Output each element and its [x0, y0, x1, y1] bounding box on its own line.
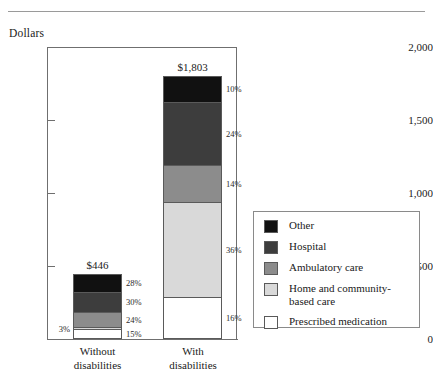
- segment-percent-label: 30%: [126, 298, 142, 307]
- legend-item-label: Home and community-based care: [289, 282, 391, 308]
- segment-percent-label: 24%: [126, 316, 142, 325]
- legend-item[interactable]: Hospital: [264, 233, 419, 254]
- bar-segment[interactable]: 14%: [163, 165, 222, 202]
- bar-segment[interactable]: 36%: [163, 202, 222, 297]
- segment-percent-label: 14%: [226, 180, 242, 189]
- segment-percent-label: 36%: [226, 246, 242, 255]
- category-label-line1: With: [148, 345, 238, 359]
- bar-segment[interactable]: 30%: [73, 292, 122, 312]
- plot-baseline: [47, 339, 238, 340]
- bar-segment[interactable]: 24%: [73, 312, 122, 328]
- bar-segment[interactable]: 28%: [73, 274, 122, 292]
- legend-item[interactable]: Other: [264, 212, 419, 233]
- category-label-line2: disabilities: [148, 359, 238, 373]
- category-label-line2: disabilities: [55, 359, 140, 373]
- legend-item[interactable]: Home and community-based care: [264, 275, 419, 308]
- segment-percent-label: 16%: [226, 314, 242, 323]
- legend-item[interactable]: Prescribed medication: [264, 308, 419, 329]
- stacked-bar[interactable]: $44628%30%24%3%15%: [73, 274, 122, 339]
- bar-segment[interactable]: 15%: [73, 329, 122, 339]
- chart-legend: OtherHospitalAmbulatory careHome and com…: [253, 211, 420, 328]
- segment-percent-label: 28%: [126, 279, 142, 288]
- segment-percent-label: 24%: [226, 130, 242, 139]
- bar-total-label: $1,803: [163, 61, 222, 73]
- y-axis-tick-mark: [47, 266, 55, 267]
- segment-percent-label: 3%: [59, 324, 70, 333]
- y-axis-title: Dollars: [9, 27, 44, 39]
- bar-segment[interactable]: 16%: [163, 297, 222, 339]
- legend-swatch-icon: [264, 241, 278, 254]
- legend-swatch-icon: [264, 316, 278, 329]
- y-axis-tick-label: 0: [389, 333, 433, 345]
- legend-swatch-icon: [264, 283, 278, 296]
- bar-segment[interactable]: 10%: [163, 76, 222, 102]
- bar-total-label: $446: [73, 259, 122, 271]
- legend-item-label: Other: [289, 219, 314, 232]
- x-axis-category-label: Withoutdisabilities: [55, 345, 140, 373]
- y-axis-tick-label: 2,000: [389, 41, 433, 53]
- y-axis-tick-label: 1,000: [389, 187, 433, 199]
- bar-segment[interactable]: 24%: [163, 102, 222, 165]
- legend-item[interactable]: Ambulatory care: [264, 254, 419, 275]
- category-label-line1: Without: [55, 345, 140, 359]
- legend-item-label: Prescribed medication: [289, 315, 387, 328]
- legend-item-label: Ambulatory care: [289, 261, 363, 274]
- stacked-bar[interactable]: $1,80310%24%14%36%16%: [163, 76, 222, 339]
- y-axis-tick-mark: [47, 120, 55, 121]
- legend-swatch-icon: [264, 262, 278, 275]
- x-axis-category-label: Withdisabilities: [148, 345, 238, 373]
- y-axis-tick-label: 1,500: [389, 114, 433, 126]
- legend-item-label: Hospital: [289, 240, 326, 253]
- segment-percent-label: 10%: [226, 85, 242, 94]
- top-horizontal-rule: [8, 11, 425, 12]
- segment-percent-label: 15%: [126, 330, 142, 339]
- legend-swatch-icon: [264, 220, 278, 233]
- y-axis-tick-mark: [47, 193, 55, 194]
